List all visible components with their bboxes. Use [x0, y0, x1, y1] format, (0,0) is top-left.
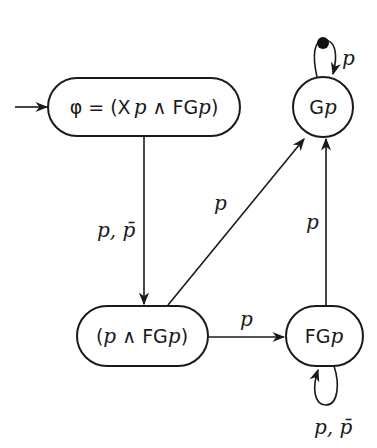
node-FGp[interactable]: FGp: [286, 306, 363, 366]
edge-FGp-loop: [315, 366, 338, 405]
svg-text:Gp: Gp: [309, 95, 337, 119]
accepting-dot-icon: [317, 37, 329, 49]
edge-label-Gp-loop: p: [342, 46, 355, 70]
node-mid[interactable]: (p ∧ FGp): [77, 306, 208, 366]
svg-text:FGp: FGp: [305, 324, 344, 348]
node-init[interactable]: φ = (Xp ∧ FGp): [48, 78, 240, 136]
phi-symbol: φ: [70, 96, 83, 118]
svg-text:(p ∧ FGp): (p ∧ FGp): [96, 324, 188, 348]
edge-label-mid-FGp: p: [240, 307, 253, 331]
edge-label-mid-Gp: p: [214, 191, 227, 215]
edge-label-FGp-Gp: p: [306, 210, 319, 234]
svg-text:φ = (Xp ∧ FGp): φ = (Xp ∧ FGp): [70, 95, 219, 119]
edge-label-init-mid: p, p̄: [97, 218, 136, 242]
node-Gp[interactable]: Gp: [293, 77, 353, 137]
automaton-diagram: φ = (Xp ∧ FGp) (p ∧ FGp) Gp FGp p, p̄ p …: [0, 0, 377, 448]
edge-label-FGp-loop: p, p̄: [314, 415, 353, 439]
edge-mid-Gp: [168, 139, 304, 305]
